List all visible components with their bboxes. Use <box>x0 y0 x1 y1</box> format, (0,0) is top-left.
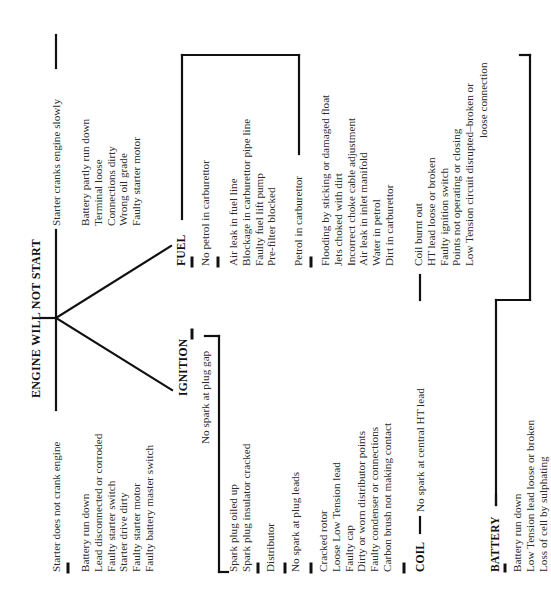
list-item: Incorrect choke cable adjustment <box>345 95 358 266</box>
coil-causes: Coil burnt out HT lead loose or broken F… <box>412 83 476 266</box>
no-petrol-causes: Air leak in fuel line Blockage in carbur… <box>227 119 278 266</box>
battery-heading: BATTERY <box>489 516 502 572</box>
starter-no-crank-label: Starter does not crank engine <box>50 442 63 572</box>
starter-slow-causes: Battery partly run down Terminal loose C… <box>79 119 143 226</box>
coil-heading: COIL <box>414 542 427 572</box>
list-item: Battery partly run down <box>79 119 92 226</box>
list-item: Water in petrol <box>370 95 383 266</box>
list-item: Wrong oil grade <box>117 119 130 226</box>
distributor-label: Distributor <box>264 523 277 572</box>
list-item: Battery run down <box>79 434 92 572</box>
petrol-causes: Flooding by sticking or damaged float Je… <box>319 95 396 266</box>
list-item: Loose Low Tension lead <box>330 423 343 572</box>
list-item: Spark plug oiled up <box>227 444 240 572</box>
list-item: Faulty starter motor <box>130 434 143 572</box>
no-spark-leads-label: No spark at plug leads <box>289 472 302 572</box>
list-item: Starter drive dirty <box>117 434 130 572</box>
list-item: Connections dirty <box>105 119 118 226</box>
list-item: Faulty ignition switch <box>438 83 451 266</box>
list-item: Dirty or worn distributor points <box>355 423 368 572</box>
list-item: Loss of cell by sulphating <box>537 420 550 572</box>
list-item: Lead disconnected or corroded <box>92 434 105 572</box>
petrol-label: Petrol in carburettor <box>292 176 305 266</box>
no-spark-gap-causes: Spark plug oiled up Spark plug insulator… <box>227 444 253 572</box>
list-item: Faulty cap <box>343 423 356 572</box>
no-petrol-label: No petrol in carburettor <box>199 160 212 266</box>
battery-causes: Battery run down Low Tension lead loose … <box>511 420 549 572</box>
list-item: Faulty condenser or connections <box>368 423 381 572</box>
list-item: Battery run down <box>511 420 524 572</box>
list-item: Air leak in inlet manifold <box>357 95 370 266</box>
list-item: Low Tension lead loose or broken <box>524 420 537 572</box>
list-item: Low Tension circuit disrupted–broken or <box>463 83 476 266</box>
list-item: Pre-filter blocked <box>265 119 278 266</box>
list-item: Spark plug insulator cracked <box>240 444 253 572</box>
list-item: Faulty fuel lift pump <box>253 119 266 266</box>
list-item: Cracked rotor <box>317 423 330 572</box>
ignition-heading: IGNITION <box>177 339 190 396</box>
list-item: Dirt in carburettor <box>383 95 396 266</box>
no-spark-leads-causes: Cracked rotor Loose Low Tension lead Fau… <box>317 423 394 572</box>
branch-ignition <box>56 318 172 390</box>
list-item: Blockage in carburettor pipe line <box>240 119 253 266</box>
list-item: Flooding by sticking or damaged float <box>319 95 332 266</box>
list-item: Jets choked with dirt <box>332 95 345 266</box>
starter-no-crank-causes: Battery run down Lead disconnected or co… <box>79 434 156 572</box>
diagram-title: ENGINE WILL NOT START <box>30 239 43 398</box>
list-item: Coil burnt out <box>412 83 425 266</box>
list-item: Carbon brush not making contact <box>381 423 394 572</box>
coil-cause-continuation: loose connection <box>477 63 490 139</box>
list-item: Faulty battery master switch <box>143 434 156 572</box>
no-spark-gap-label: No spark at plug gap <box>199 351 212 444</box>
fault-diagnosis-diagram: ENGINE WILL NOT START Starter cranks eng… <box>0 0 551 603</box>
list-item: HT lead loose or broken <box>425 83 438 266</box>
list-item: Air leak in fuel line <box>227 119 240 266</box>
list-item: Points not operating or closing <box>450 83 463 266</box>
list-item: Faulty starter motor <box>130 119 143 226</box>
fuel-heading: FUEL <box>175 235 188 266</box>
list-item: Terminal loose <box>92 119 105 226</box>
no-spark-central-label: No spark at central HT lead <box>414 388 427 512</box>
branch-fuel <box>56 246 171 318</box>
starter-slow-label: Starter cranks engine slowly <box>50 99 63 226</box>
list-item: Faulty starter switch <box>105 434 118 572</box>
